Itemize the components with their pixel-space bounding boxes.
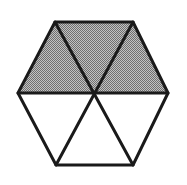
figure-root: Regular hexagon divided into six congrue… [0, 0, 187, 185]
hexagon-diagram-svg: Regular hexagon divided into six congrue… [0, 0, 187, 185]
